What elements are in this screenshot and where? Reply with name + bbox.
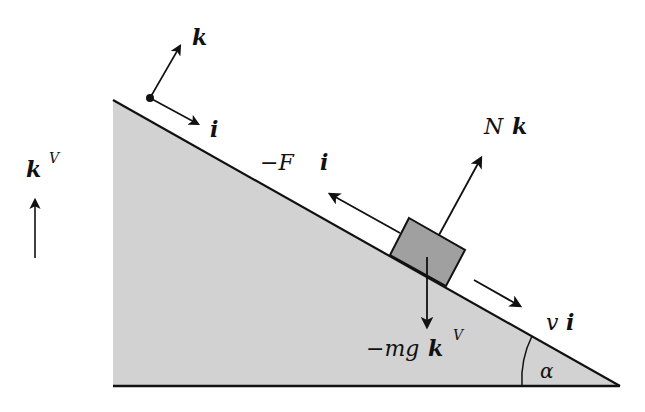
velocity-arrow	[474, 280, 520, 306]
friction-label: −F	[260, 150, 294, 175]
body-frame	[146, 46, 198, 124]
friction-vec-label: i	[320, 149, 328, 175]
k-body-label: k	[192, 24, 207, 50]
normal-label: N	[483, 114, 504, 139]
gravity-label: −mg	[366, 336, 419, 361]
normal-vec-label: k	[512, 113, 527, 139]
incline-diagram: α k i k V −F i N k −mg k V v i	[0, 0, 645, 412]
k-vertical-sup: V	[49, 150, 61, 166]
velocity-vec-label: i	[566, 309, 574, 335]
angle-label: α	[540, 359, 554, 383]
velocity-label: v	[546, 310, 559, 335]
k-vertical-label: k	[26, 156, 41, 182]
i-body-label: i	[210, 116, 218, 142]
normal-arrow	[439, 158, 481, 235]
gravity-vec-label: k	[428, 335, 443, 361]
